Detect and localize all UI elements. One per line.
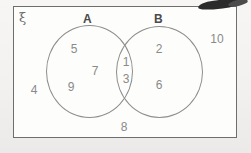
element-b-only-2: 2 <box>152 42 166 56</box>
element-b-only-6: 6 <box>152 78 166 92</box>
element-a-only-9: 9 <box>64 80 78 94</box>
set-label-b: B <box>154 12 163 26</box>
element-intersection-1: 1 <box>119 55 133 69</box>
universal-set-symbol: ξ <box>19 10 26 25</box>
element-outside-8: 8 <box>117 120 131 134</box>
element-outside-10: 10 <box>208 32 226 46</box>
element-intersection-3: 3 <box>119 72 133 86</box>
element-outside-4: 4 <box>27 83 41 97</box>
venn-diagram-canvas: ξ A B 5 7 9 1 3 2 6 4 8 10 <box>0 0 251 153</box>
element-a-only-5: 5 <box>67 42 81 56</box>
element-a-only-7: 7 <box>88 64 102 78</box>
set-label-a: A <box>83 12 92 26</box>
